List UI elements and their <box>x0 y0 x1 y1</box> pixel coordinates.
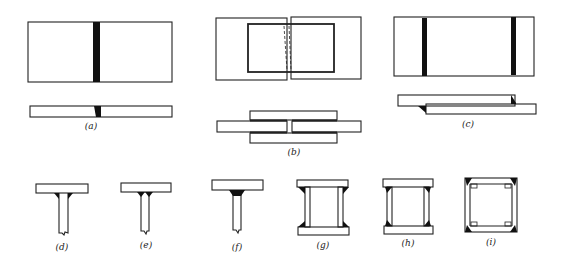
panel-a-section-weld <box>94 106 101 117</box>
panel-b-left-section-plate <box>217 121 287 132</box>
panel-d-weld-left <box>54 193 59 199</box>
panel-d-weld-right <box>68 193 73 199</box>
panel-c <box>394 17 536 114</box>
label-h: (h) <box>402 238 415 248</box>
panel-a-weld-seam <box>93 22 100 82</box>
label-b: (b) <box>288 147 301 157</box>
panel-h <box>383 179 433 234</box>
panel-f-weld <box>229 190 245 196</box>
panel-h-weld-tr <box>424 187 431 193</box>
panel-h-left-web <box>387 187 392 226</box>
panel-b-left-plate <box>216 18 287 80</box>
label-i: (i) <box>486 237 496 247</box>
panel-g-top-flange <box>297 180 348 187</box>
panel-f <box>212 180 263 233</box>
panel-b-right-plate <box>291 17 361 79</box>
panel-e <box>121 183 171 234</box>
panel-g-bottom-flange <box>298 227 349 235</box>
panel-e-weld-right <box>145 192 153 197</box>
panel-d <box>36 184 88 235</box>
label-g: (g) <box>317 240 330 250</box>
panel-i-tab-br <box>505 222 511 226</box>
panel-d-flange <box>36 184 88 193</box>
panel-a <box>28 22 172 117</box>
panel-g-left-web <box>305 187 310 227</box>
panel-h-weld-br <box>424 220 431 226</box>
panel-e-web <box>141 192 149 234</box>
panel-g <box>297 180 349 235</box>
panel-g-weld-br <box>343 221 349 227</box>
panel-b-right-section-plate <box>292 121 361 132</box>
label-e: (e) <box>140 240 153 250</box>
panel-i-outer-box <box>465 178 517 232</box>
panel-e-flange <box>121 183 171 192</box>
panel-i <box>465 178 517 232</box>
panel-h-bottom-flange <box>384 226 433 234</box>
panel-i-tab-tl <box>471 184 477 188</box>
panel-b-top-strap <box>250 111 337 120</box>
panel-f-web <box>233 190 241 233</box>
panel-h-top-flange <box>383 179 433 187</box>
panel-h-right-web <box>424 187 429 226</box>
panel-i-tab-tr <box>505 184 511 188</box>
panel-b-bottom-strap <box>250 133 337 143</box>
panel-g-weld-tr <box>343 187 349 194</box>
panel-h-weld-tl <box>385 187 392 193</box>
label-a: (a) <box>85 121 98 131</box>
label-f: (f) <box>232 242 243 252</box>
panel-i-tab-bl <box>471 222 477 226</box>
panel-d-web <box>59 193 68 235</box>
panel-f-flange <box>212 180 263 190</box>
panel-e-weld-left <box>137 192 145 197</box>
panel-g-weld-bl <box>298 221 305 227</box>
panel-c-weld-left <box>422 18 427 76</box>
panel-h-weld-bl <box>385 220 392 226</box>
panel-c-fillet-left <box>418 106 426 113</box>
panel-c-weld-right <box>511 17 516 75</box>
weld-joints-diagram: (a) (b) (c) (d) (e) (f) (g) (h) (i) <box>0 0 561 269</box>
panel-g-right-web <box>338 187 343 227</box>
panel-g-weld-tl <box>298 187 305 194</box>
panel-b <box>216 17 361 143</box>
label-c: (c) <box>462 119 475 129</box>
label-d: (d) <box>56 242 69 252</box>
